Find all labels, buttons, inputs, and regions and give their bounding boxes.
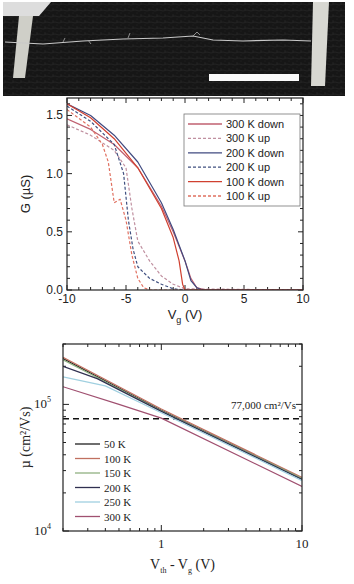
x-tick-label: 10 [296, 292, 310, 306]
plot-frame [63, 344, 302, 531]
legend-label: 100 K up [226, 190, 270, 202]
y-tick-label: 104 [34, 522, 51, 538]
x-tick-label: 5 [241, 292, 248, 306]
legend-label: 150 K [104, 467, 131, 479]
legend-label: 300 K down [226, 118, 284, 130]
x-axis-label: Vth - Vg (V) [150, 557, 215, 575]
legend-label: 300 K [104, 511, 131, 523]
mobility-chart: 77,000 cm²/Vs110104105Vth - Vg (V)µ (cm²… [18, 344, 309, 575]
y-tick-label: 1.0 [46, 167, 63, 181]
x-tick-label: 0 [182, 292, 189, 306]
conductance-chart: -10-505100.00.51.01.5Vg (V)G (µS)300 K d… [18, 98, 310, 325]
legend-label: 100 K down [226, 176, 284, 188]
x-tick-label: 1 [158, 536, 165, 551]
series-line [63, 357, 302, 477]
y-tick-label: 0.0 [46, 283, 63, 297]
legend-label: 100 K [104, 453, 131, 465]
legend-label: 200 K up [226, 161, 270, 173]
x-axis-label: Vg (V) [168, 307, 203, 325]
y-tick-label: 0.5 [46, 225, 63, 239]
legend-label: 50 K [104, 438, 126, 450]
reference-label: 77,000 cm²/Vs [231, 399, 296, 411]
y-axis-label: µ (cm²/Vs) [18, 406, 34, 468]
legend-label: 200 K down [226, 147, 284, 159]
legend: 300 K down300 K up200 K down200 K up100 … [184, 114, 300, 206]
legend-label: 300 K up [226, 132, 270, 144]
legend: 50 K100 K150 K200 K250 K300 K [75, 438, 131, 523]
legend-label: 250 K [104, 496, 131, 508]
x-tick-label: 10 [296, 536, 309, 551]
x-tick-label: -5 [121, 292, 132, 306]
y-tick-label: 105 [34, 395, 51, 411]
figure: -10-505100.00.51.01.5Vg (V)G (µS)300 K d… [0, 0, 354, 584]
y-tick-label: 1.5 [46, 108, 63, 122]
legend-label: 200 K [104, 482, 131, 494]
y-axis-label: G (µS) [18, 175, 33, 214]
